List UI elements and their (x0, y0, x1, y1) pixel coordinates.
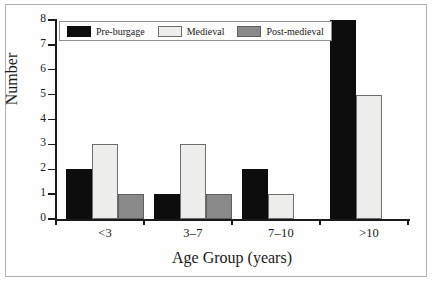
y-tick-label-5: 5 (22, 88, 46, 100)
x-tick-boundary-1 (143, 220, 144, 225)
bar (180, 144, 206, 219)
x-tick-label-2: 7–10 (246, 226, 316, 241)
legend-swatch-icon (237, 26, 261, 37)
y-tick-5 (48, 94, 56, 95)
y-tick-label-3: 3 (22, 137, 46, 149)
x-tick-label-3: >10 (334, 226, 404, 241)
y-tick-label-1: 1 (22, 187, 46, 199)
y-tick-1 (48, 193, 56, 194)
x-tick-label-1: 3–7 (158, 226, 228, 241)
y-tick-label-8: 8 (22, 13, 46, 25)
y-tick-label-6: 6 (22, 63, 46, 75)
legend-item: Pre-burgage (67, 26, 145, 37)
x-tick-boundary-2 (231, 220, 232, 225)
legend-label: Pre-burgage (96, 26, 145, 37)
chart-figure: Number 012345678 <33–77–10>10 Age Group … (0, 0, 432, 284)
x-tick-boundary-3 (319, 220, 320, 225)
bar (356, 95, 382, 219)
bar (118, 194, 144, 219)
y-tick-7 (48, 44, 56, 45)
legend-item: Medieval (158, 26, 225, 37)
y-tick-6 (48, 69, 56, 70)
y-tick-3 (48, 144, 56, 145)
plot-area (56, 20, 408, 219)
y-tick-4 (48, 119, 56, 120)
legend-item: Post-medieval (237, 26, 323, 37)
x-axis-title: Age Group (years) (56, 249, 408, 267)
bar (154, 194, 180, 219)
legend-label: Medieval (187, 26, 225, 37)
y-tick-label-7: 7 (22, 38, 46, 50)
bar (66, 169, 92, 219)
bar (268, 194, 294, 219)
y-tick-label-4: 4 (22, 113, 46, 125)
legend-label: Post-medieval (266, 26, 323, 37)
bar (330, 20, 356, 219)
legend-swatch-icon (158, 26, 182, 37)
bar (242, 169, 268, 219)
y-tick-label-0: 0 (22, 212, 46, 224)
bar (92, 144, 118, 219)
legend-swatch-icon (67, 26, 91, 37)
x-tick-label-0: <3 (70, 226, 140, 241)
x-tick-boundary-4 (407, 220, 408, 225)
y-axis-title: Number (3, 19, 21, 139)
bar (206, 194, 232, 219)
y-tick-label-2: 2 (22, 162, 46, 174)
y-tick-2 (48, 169, 56, 170)
x-tick-boundary-0 (55, 220, 56, 225)
chart-legend: Pre-burgageMedievalPost-medieval (59, 21, 332, 41)
y-tick-8 (48, 19, 56, 20)
